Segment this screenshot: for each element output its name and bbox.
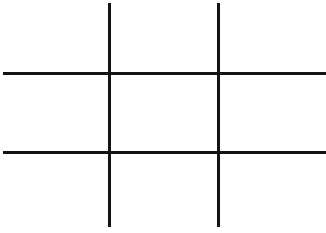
cell-top-center[interactable]: [111, 3, 217, 72]
tic-tac-toe-board: [0, 0, 326, 233]
cell-middle-left[interactable]: [3, 75, 108, 151]
cell-bottom-right[interactable]: [220, 154, 326, 227]
cell-bottom-left[interactable]: [3, 154, 108, 227]
cell-top-right[interactable]: [220, 3, 326, 72]
cell-top-left[interactable]: [3, 3, 108, 72]
cell-middle-right[interactable]: [220, 75, 326, 151]
cell-center[interactable]: [111, 75, 217, 151]
cell-bottom-center[interactable]: [111, 154, 217, 227]
